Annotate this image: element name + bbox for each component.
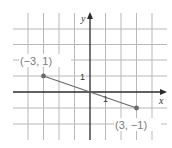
y-tick-label: 1 [80,72,85,82]
point-b-label: (3, −1) [115,119,147,131]
point-a-label: (−3, 1) [20,55,52,67]
y-axis-label: y [80,13,86,24]
x-tick-label: 1 [103,94,108,104]
point-b [134,106,139,111]
y-axis-arrow-icon [87,12,93,19]
point-a [41,74,46,79]
coordinate-plane: y x 1 1 (−3, 1) (3, −1) [0,0,172,148]
x-axis-label: x [158,95,164,106]
